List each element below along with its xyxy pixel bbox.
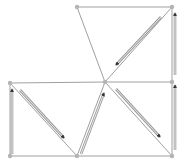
node-n-top-left [75, 5, 79, 9]
arrow-center-up-diagonal-icon [81, 93, 104, 154]
node-n-bottom-right [170, 154, 174, 158]
edge-n-top-right-n-center [105, 7, 172, 82]
edge-n-center-n-bottom-right [105, 82, 172, 156]
node-n-top-right [170, 5, 174, 9]
node-n-bottom-left [8, 154, 12, 158]
node-n-mid-left [8, 81, 12, 85]
edge-n-mid-left-n-center [10, 82, 105, 83]
diagram-canvas [0, 0, 184, 166]
arrow-top-diagonal-icon [116, 17, 161, 65]
edge-n-center-n-bottom-mid [77, 82, 105, 156]
node-n-bottom-mid [75, 154, 79, 158]
edge-n-top-left-n-center [77, 7, 105, 82]
node-n-center [103, 80, 107, 84]
node-n-mid-right [170, 80, 174, 84]
arrow-right-diagonal-icon [116, 89, 160, 137]
arrow-left-diagonal-icon [20, 90, 64, 138]
edge-n-mid-left-n-bottom-mid [10, 83, 77, 156]
